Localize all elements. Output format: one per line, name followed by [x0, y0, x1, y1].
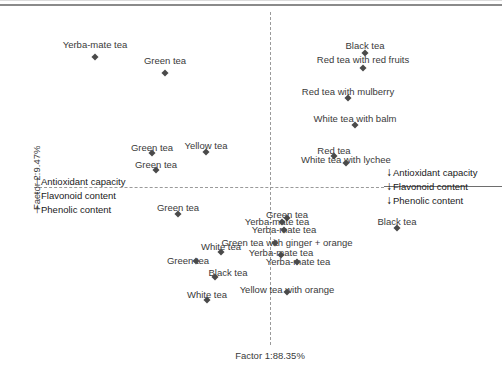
loading-label: Flavonoid content	[393, 181, 468, 192]
loading-item-left-2: ↑ Phenolic content	[34, 204, 111, 215]
horizontal-zero-axis-dashed	[34, 187, 384, 188]
loading-label: Antioxidant capacity	[393, 167, 478, 178]
y-axis-title: Factor 2:9.47%	[31, 146, 42, 210]
down-arrow-icon: ↓	[386, 195, 392, 206]
scatter-plot-figure: Yerba-mate teaGreen teaBlack teaRed tea …	[0, 0, 502, 371]
loading-item-left-1: ↑ Flavonoid content	[34, 190, 116, 201]
figure-top-hairline	[0, 0, 502, 1]
vertical-zero-axis	[270, 12, 271, 345]
loading-label: Phenolic content	[393, 195, 463, 206]
data-point-label: Green tea	[167, 256, 209, 266]
data-point-marker	[161, 69, 168, 76]
loading-label: Antioxidant capacity	[41, 176, 126, 187]
data-point-label: Green tea	[144, 56, 186, 66]
x-axis-title: Factor 1:88.35%	[235, 350, 305, 361]
data-point-marker	[91, 53, 98, 60]
loading-label: Phenolic content	[41, 204, 111, 215]
data-point-label: Yerba-mate tea	[63, 40, 128, 50]
figure-top-rule	[0, 4, 502, 6]
loading-label: Flavonoid content	[41, 190, 116, 201]
loading-item-right-0: ↓ Antioxidant capacity	[386, 167, 478, 178]
loading-item-right-2: ↓ Phenolic content	[386, 195, 463, 206]
loading-item-left-0: ↑ Antioxidant capacity	[34, 176, 126, 187]
down-arrow-icon: ↓	[386, 181, 392, 192]
loading-item-right-1: ↓ Flavonoid content	[386, 181, 468, 192]
down-arrow-icon: ↓	[386, 167, 392, 178]
data-point-marker	[359, 64, 366, 71]
